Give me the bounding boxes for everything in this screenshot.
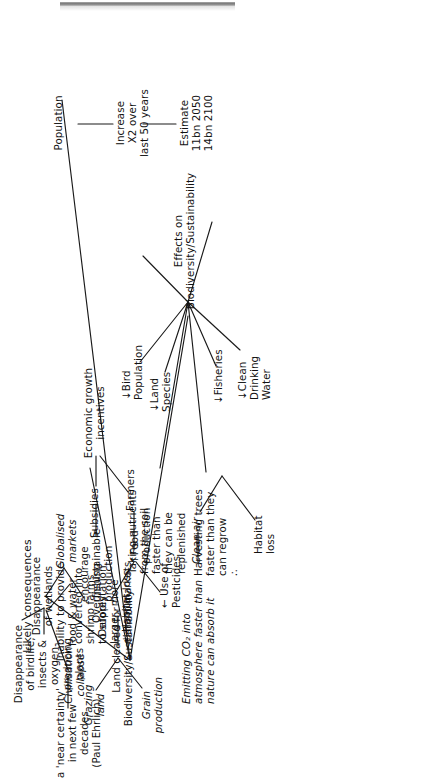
node-population: Population — [52, 86, 64, 160]
node-land-species: ↓Land Species — [148, 354, 172, 412]
node-fisheries: ↓Fisheries — [212, 334, 224, 404]
node-bird-population: ↓Bird Population — [120, 338, 144, 400]
node-use-of-pesticides: ← Use of Pesticides — [158, 546, 182, 608]
node-population-estimate: Estimate 11bn 2050 14bn 2100 — [178, 80, 214, 166]
node-near-certainty-ehrlich: a 'near certainty' in next few decades (… — [54, 684, 103, 782]
node-clean-air: Clean air — [190, 504, 202, 564]
node-overfishing: Overfishing — [90, 560, 102, 626]
node-emitting-co2: Emitting CO₂ into atmosphere faster than… — [180, 562, 216, 704]
node-effects-on-biodiversity: Effects on Biodiversity/Sustainability — [172, 166, 196, 316]
node-economic-growth: Economic growth incentives — [82, 364, 106, 462]
node-population-increase: Increase X2 over last 50 years — [114, 80, 150, 166]
node-grain-production: Grain production — [140, 674, 164, 736]
node-clean-drinking-water: ↓Clean Drinking Water — [236, 334, 272, 400]
node-habitat-loss-small: Habitat loss — [252, 500, 276, 554]
